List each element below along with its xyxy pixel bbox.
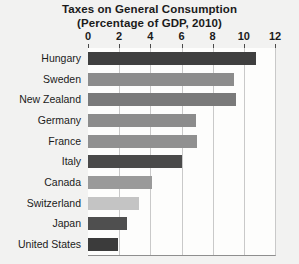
chart-figure: Taxes on General Consumption (Percentage… [0,0,299,264]
category-label-japan: Japan [52,217,81,230]
bar-row [88,93,236,106]
x-axis-tick-labels: 024681012 [0,30,299,44]
chart-subtitle: (Percentage of GDP, 2010) [0,16,299,30]
chart-title: Taxes on General Consumption [0,2,299,16]
chart-title-block: Taxes on General Consumption (Percentage… [0,2,299,30]
category-label-germany: Germany [38,114,81,127]
category-label-switzerland: Switzerland [27,197,81,210]
x-tick-label-8: 8 [210,30,216,42]
bar-italy [88,155,182,168]
bar-row [88,114,196,127]
bar-row [88,217,127,230]
bar-row [88,176,152,189]
category-label-sweden: Sweden [43,73,81,86]
x-tick-label-12: 12 [269,30,281,42]
x-tick-label-6: 6 [178,30,184,42]
bar-hungary [88,52,256,65]
x-tick-label-10: 10 [238,30,250,42]
bar-row [88,197,139,210]
x-tick-label-4: 4 [147,30,153,42]
bar-canada [88,176,152,189]
gridline-12 [275,48,276,255]
category-label-france: France [48,135,81,148]
bar-row [88,238,118,251]
bar-switzerland [88,197,139,210]
bar-germany [88,114,196,127]
gridline-10 [244,48,245,255]
category-label-canada: Canada [44,176,81,189]
bar-row [88,73,234,86]
bar-row [88,135,197,148]
bar-japan [88,217,127,230]
bar-new-zealand [88,93,236,106]
bar-sweden [88,73,234,86]
bar-united-states [88,238,118,251]
category-label-hungary: Hungary [41,52,81,65]
bar-row [88,52,256,65]
x-tick-label-0: 0 [85,30,91,42]
plot-area [88,48,276,256]
category-label-new-zealand: New Zealand [19,93,81,106]
x-tick-label-2: 2 [116,30,122,42]
category-axis-labels: HungarySwedenNew ZealandGermanyFranceIta… [0,48,85,255]
bar-france [88,135,197,148]
category-label-italy: Italy [62,155,81,168]
category-label-united-states: United States [18,238,81,251]
bar-row [88,155,182,168]
